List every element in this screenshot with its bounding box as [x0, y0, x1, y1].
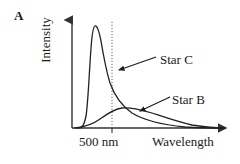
curve-star-b: [75, 108, 224, 128]
star-b-leader-arrow: [140, 97, 170, 111]
x-axis-tick-label-500nm: 500 nm: [79, 134, 118, 150]
blackbody-spectrum-figure: A Intensity 500 nm: [0, 0, 240, 164]
curve-label-star-b: Star B: [172, 92, 205, 108]
y-axis-label: Intensity: [38, 0, 54, 90]
curve-label-star-c: Star C: [160, 52, 193, 68]
x-axis-label: Wavelength: [152, 134, 214, 150]
star-c-leader-arrow: [119, 57, 156, 70]
